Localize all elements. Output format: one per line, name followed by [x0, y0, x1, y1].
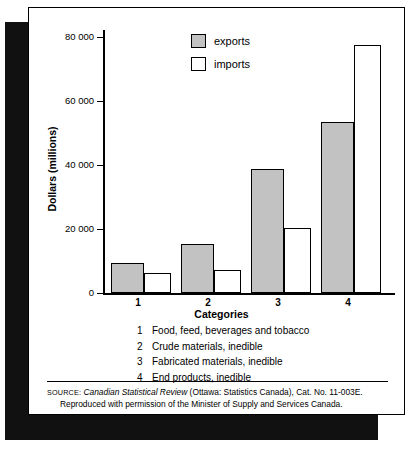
x-tick-label-1: 1 — [123, 297, 153, 308]
category-number-1: 1 — [137, 325, 152, 337]
categories-heading: Categories — [37, 308, 406, 320]
chart-legend: exports imports — [191, 34, 250, 80]
y-tick-mark-80000 — [97, 37, 104, 39]
x-tick-label-2: 2 — [193, 297, 223, 308]
bar-imports-3 — [284, 228, 311, 293]
category-number-3: 3 — [137, 356, 152, 368]
bar-imports-1 — [144, 273, 171, 293]
source-publication-title: Canadian Statistical Review — [83, 387, 187, 397]
legend-item-imports: imports — [191, 57, 250, 71]
source-publication-rest: (Ottawa: Statistics Canada), Cat. No. 11… — [187, 387, 362, 397]
source-divider — [47, 381, 388, 382]
category-label-3: Fabricated materials, inedible — [152, 356, 406, 368]
bar-exports-1 — [111, 263, 144, 293]
y-tick-mark-40000 — [97, 165, 104, 167]
legend-swatch-imports-icon — [191, 57, 206, 71]
category-label-2: Crude materials, inedible — [152, 341, 406, 353]
y-tick-mark-0 — [97, 293, 104, 295]
legend-item-exports: exports — [191, 34, 250, 48]
bar-imports-2 — [214, 270, 241, 293]
y-tick-mark-60000 — [97, 101, 104, 103]
legend-swatch-exports-icon — [191, 34, 206, 48]
bar-exports-4 — [321, 122, 354, 293]
y-axis-line — [103, 30, 105, 295]
y-tick-label-0: 0 — [89, 288, 94, 298]
category-label-1: Food, feed, beverages and tobacco — [152, 325, 406, 337]
x-tick-label-3: 3 — [263, 297, 293, 308]
source-permission-line: Reproduced with permission of the Minist… — [60, 399, 391, 411]
y-tick-label-60000: 60 000 — [65, 96, 94, 106]
chart-plot-area: 80 000 60 000 40 000 20 000 0 Dollars (m… — [29, 8, 406, 308]
x-tick-label-4: 4 — [333, 297, 363, 308]
bar-exports-3 — [251, 169, 284, 293]
figure-panel: 80 000 60 000 40 000 20 000 0 Dollars (m… — [28, 7, 405, 415]
y-tick-label-40000: 40 000 — [65, 160, 94, 170]
category-item-1: 1 Food, feed, beverages and tobacco — [137, 325, 406, 337]
y-axis-title: Dollars (millions) — [46, 94, 58, 244]
bar-imports-4 — [354, 45, 381, 293]
categories-legend-block: Categories 1 Food, feed, beverages and t… — [29, 308, 406, 387]
category-item-2: 2 Crude materials, inedible — [137, 341, 406, 353]
x-axis-line — [103, 293, 395, 295]
category-item-3: 3 Fabricated materials, inedible — [137, 356, 406, 368]
category-number-2: 2 — [137, 341, 152, 353]
source-note: SOURCE: Canadian Statistical Review (Ott… — [47, 387, 391, 411]
y-tick-label-20000: 20 000 — [65, 224, 94, 234]
y-tick-mark-20000 — [97, 229, 104, 231]
legend-label-exports: exports — [214, 35, 250, 47]
source-label: SOURCE: — [47, 388, 81, 397]
legend-label-imports: imports — [214, 58, 250, 70]
y-tick-label-80000: 80 000 — [65, 32, 94, 42]
bar-exports-2 — [181, 244, 214, 293]
